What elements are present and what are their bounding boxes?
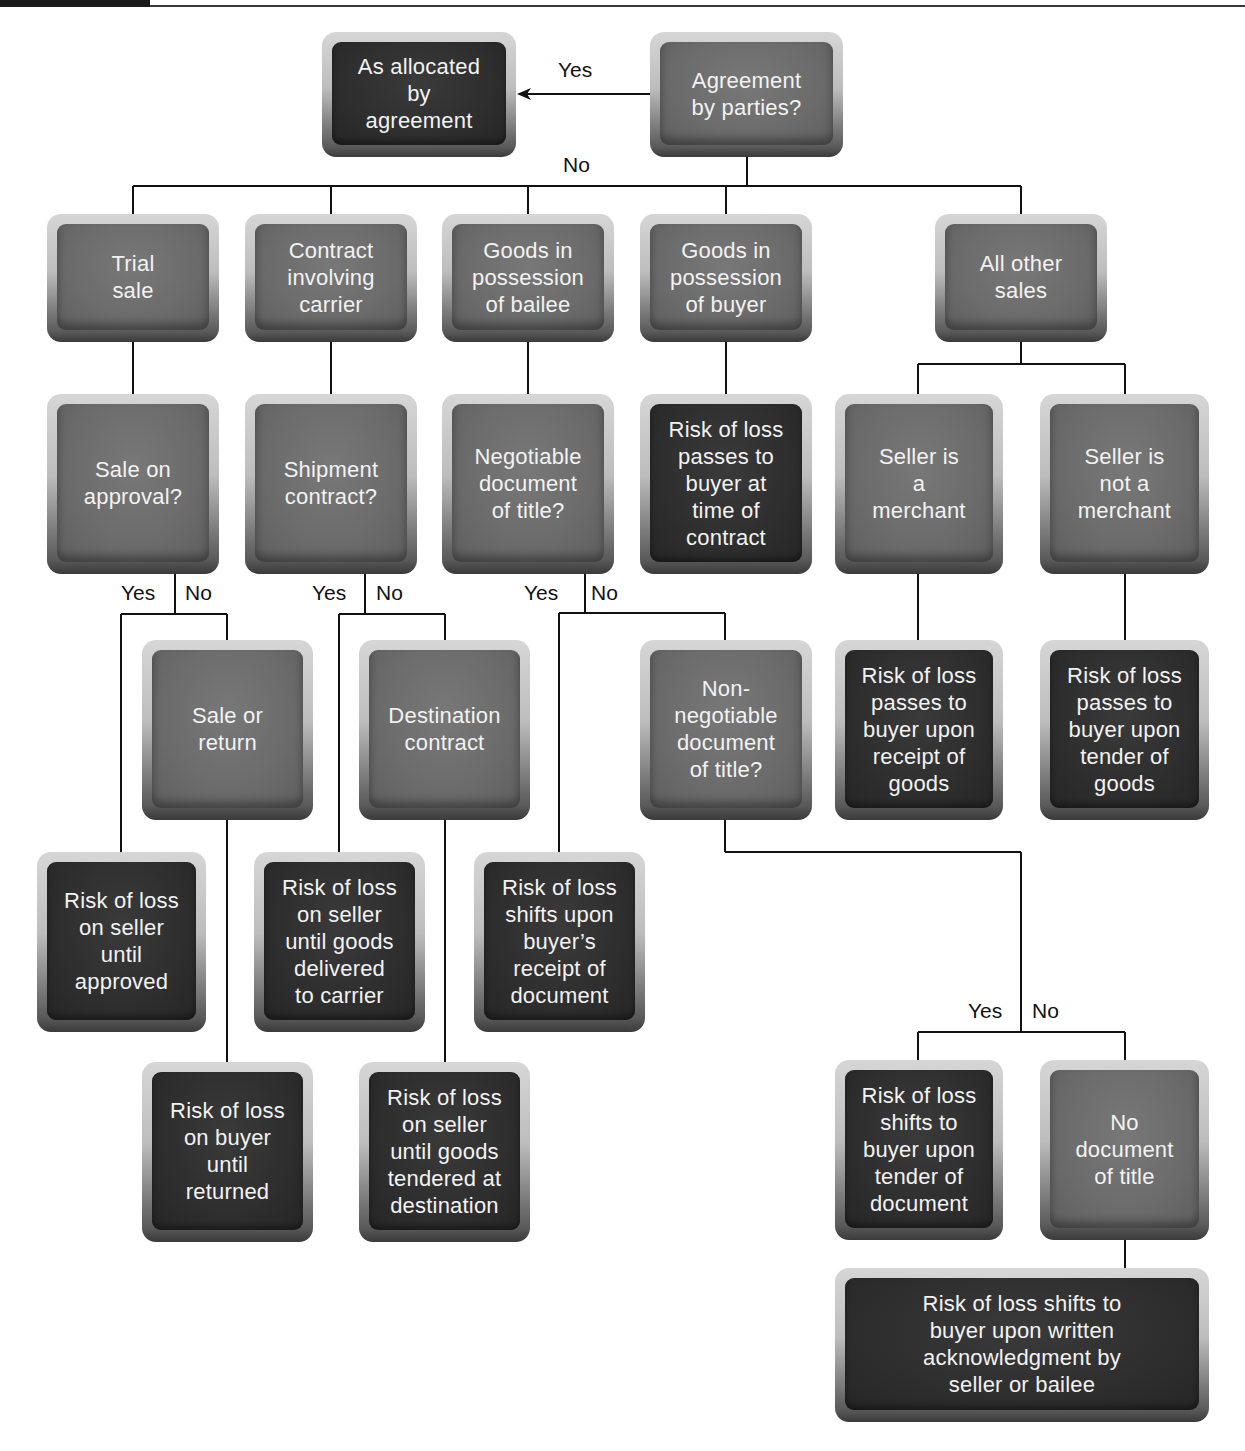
label-nonneg-no: No <box>1032 999 1059 1023</box>
node-as-allocated: As allocated by agreement <box>322 32 516 157</box>
node-text: Seller is not a merchant <box>1050 404 1199 562</box>
node-text: Negotiable document of title? <box>452 404 604 562</box>
node-text: All other sales <box>945 224 1097 330</box>
node-text: Seller is a merchant <box>845 404 993 562</box>
node-text: Risk of loss shifts to buyer upon writte… <box>845 1278 1199 1410</box>
node-risk-until-returned: Risk of loss on buyer until returned <box>142 1062 313 1242</box>
label-nonneg-yes: Yes <box>968 999 1002 1023</box>
node-sale-on-approval: Sale on approval? <box>47 394 219 574</box>
node-risk-receipt-of-document: Risk of loss shifts upon buyer’s receipt… <box>474 852 645 1032</box>
label-negotiable-yes: Yes <box>524 581 558 605</box>
node-risk-tendered-at-destination: Risk of loss on seller until goods tende… <box>359 1062 530 1242</box>
node-risk-time-of-contract: Risk of loss passes to buyer at time of … <box>640 394 812 574</box>
node-text: Agreement by parties? <box>660 42 833 145</box>
node-seller-not-merchant: Seller is not a merchant <box>1040 394 1209 574</box>
label-approval-yes: Yes <box>121 581 155 605</box>
node-text: Sale on approval? <box>57 404 209 562</box>
node-risk-delivered-to-carrier: Risk of loss on seller until goods deliv… <box>254 852 425 1032</box>
node-contract-carrier: Contract involving carrier <box>245 214 417 342</box>
node-text: Contract involving carrier <box>255 224 407 330</box>
node-text: As allocated by agreement <box>332 42 506 145</box>
node-all-other-sales: All other sales <box>935 214 1107 342</box>
node-text: Goods in possession of buyer <box>650 224 802 330</box>
node-non-negotiable-document: Non- negotiable document of title? <box>640 640 812 820</box>
node-no-document-of-title: No document of title <box>1040 1060 1209 1240</box>
node-text: Risk of loss passes to buyer at time of … <box>650 404 802 562</box>
node-text: No document of title <box>1050 1070 1199 1228</box>
node-text: Shipment contract? <box>255 404 407 562</box>
node-sale-or-return: Sale or return <box>142 640 313 820</box>
node-seller-merchant: Seller is a merchant <box>835 394 1003 574</box>
label-top-no: No <box>563 153 590 177</box>
node-text: Risk of loss shifts to buyer upon tender… <box>845 1070 993 1228</box>
node-destination-contract: Destination contract <box>359 640 530 820</box>
node-text: Risk of loss on seller until approved <box>47 862 196 1020</box>
node-text: Sale or return <box>152 650 303 808</box>
node-risk-until-approved: Risk of loss on seller until approved <box>37 852 206 1032</box>
node-risk-tender-of-goods: Risk of loss passes to buyer upon tender… <box>1040 640 1209 820</box>
node-goods-buyer: Goods in possession of buyer <box>640 214 812 342</box>
node-text: Risk of loss on buyer until returned <box>152 1072 303 1230</box>
node-negotiable-document: Negotiable document of title? <box>442 394 614 574</box>
node-risk-receipt-of-goods: Risk of loss passes to buyer upon receip… <box>835 640 1003 820</box>
label-approval-no: No <box>185 581 212 605</box>
label-shipment-no: No <box>376 581 403 605</box>
node-agreement-by-parties: Agreement by parties? <box>650 32 843 157</box>
node-text: Non- negotiable document of title? <box>650 650 802 808</box>
node-risk-tender-of-document: Risk of loss shifts to buyer upon tender… <box>835 1060 1003 1240</box>
node-text: Risk of loss on seller until goods deliv… <box>264 862 415 1020</box>
node-text: Risk of loss passes to buyer upon receip… <box>845 650 993 808</box>
node-shipment-contract: Shipment contract? <box>245 394 417 574</box>
node-risk-written-acknowledgment: Risk of loss shifts to buyer upon writte… <box>835 1268 1209 1422</box>
node-text: Risk of loss on seller until goods tende… <box>369 1072 520 1230</box>
node-text: Risk of loss shifts upon buyer’s receipt… <box>484 862 635 1020</box>
node-text: Destination contract <box>369 650 520 808</box>
node-text: Goods in possession of bailee <box>452 224 604 330</box>
node-goods-bailee: Goods in possession of bailee <box>442 214 614 342</box>
node-text: Risk of loss passes to buyer upon tender… <box>1050 650 1199 808</box>
node-text: Trial sale <box>57 224 209 330</box>
label-top-yes: Yes <box>558 58 592 82</box>
node-trial-sale: Trial sale <box>47 214 219 342</box>
label-negotiable-no: No <box>591 581 618 605</box>
label-shipment-yes: Yes <box>312 581 346 605</box>
